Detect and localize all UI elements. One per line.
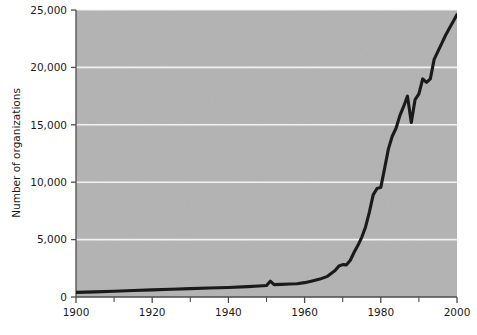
x-tick-label-1980: 1980 [367,306,394,318]
x-tick-label-1960: 1960 [291,306,318,318]
chart-figure: 05,00010,00015,00020,00025,000 190019201… [0,0,477,335]
y-tick-label-10000: 10,000 [30,176,67,188]
y-tick-label-20000: 20,000 [30,61,67,73]
x-tick-label-1900: 1900 [63,306,90,318]
y-tick-label-0: 0 [60,291,67,303]
y-tick-label-25000: 25,000 [30,4,67,16]
plot-area [76,10,457,297]
y-tick-label-15000: 15,000 [30,119,67,131]
x-tick-label-1920: 1920 [139,306,166,318]
x-tick-label-1940: 1940 [215,306,242,318]
line-chart: 05,00010,00015,00020,00025,000 190019201… [0,0,477,335]
y-tick-label-5000: 5,000 [37,233,67,245]
y-axis-title: Number of organizations [10,88,22,218]
plot-background-texture [76,10,457,297]
x-tick-label-2000: 2000 [444,306,471,318]
